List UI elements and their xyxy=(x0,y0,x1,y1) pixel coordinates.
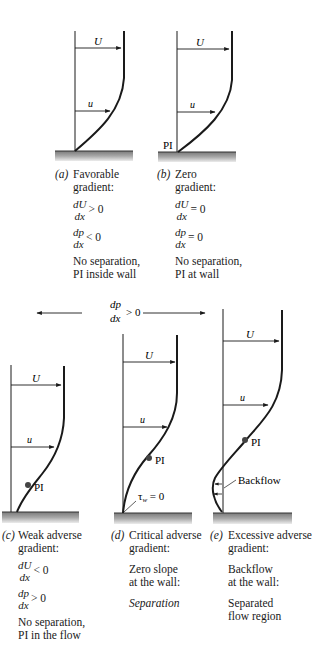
inflection-point-dot xyxy=(242,437,248,443)
panel-a-sketch: U u xyxy=(55,31,133,161)
label-tau-w: τw = 0 xyxy=(138,490,165,504)
caption-note: No separation, xyxy=(175,255,242,268)
wall xyxy=(158,152,236,162)
label-U: U xyxy=(196,36,205,48)
label-PI: PI xyxy=(155,454,165,466)
label-u: u xyxy=(240,392,245,403)
caption-a: (a) Favorable gradient: dUdx > 0 dpdx < … xyxy=(55,168,140,281)
label-u: u xyxy=(190,99,195,110)
dp-numerator: dp xyxy=(110,298,122,310)
caption-d: (d) Critical adverse gradient: Zero slop… xyxy=(111,529,201,610)
caption-title: Critical adverse xyxy=(129,529,201,542)
caption-title: Zero xyxy=(175,168,242,181)
caption-result: Separated xyxy=(228,597,312,610)
caption-b: (b) Zero gradient: dUdx = 0 dpdx = 0 No … xyxy=(157,168,242,281)
caption-desc: at the wall: xyxy=(129,576,201,589)
caption-title: gradient: xyxy=(73,181,140,194)
condition-dU-dx: dUdx > 0 xyxy=(73,198,140,222)
condition-dp-dx: dpdx = 0 xyxy=(175,226,242,250)
caption-note: No separation, xyxy=(73,255,140,268)
label-PI: PI xyxy=(251,436,261,448)
caption-tag: (d) xyxy=(111,529,129,610)
label-U: U xyxy=(145,349,154,361)
condition-dU-dx: dUdx < 0 xyxy=(18,559,85,583)
panel-c-sketch: U u PI xyxy=(2,365,79,523)
wall-shear-leader xyxy=(124,501,136,512)
caption-title: gradient: xyxy=(18,542,85,555)
caption-tag: (a) xyxy=(55,168,73,281)
caption-note: PI in the flow xyxy=(18,629,85,642)
caption-tag: (e) xyxy=(210,529,228,623)
label-backflow: Backflow xyxy=(238,474,281,486)
inflection-point-dot xyxy=(25,482,31,488)
condition-dp-dx: dpdx > 0 xyxy=(18,587,85,611)
caption-e: (e) Excessive adverse gradient: Backflow… xyxy=(210,529,312,623)
panel-d-sketch: U u PI τw = 0 xyxy=(114,334,192,524)
caption-title: gradient: xyxy=(175,181,242,194)
label-U: U xyxy=(94,35,103,47)
caption-title: Favorable xyxy=(73,168,140,181)
caption-title: gradient: xyxy=(228,542,312,555)
label-PI: PI xyxy=(34,481,44,493)
caption-title: Weak adverse xyxy=(18,529,85,542)
caption-desc: Backflow xyxy=(228,563,312,576)
caption-note: No separation, xyxy=(18,616,85,629)
label-PI: PI xyxy=(163,139,173,151)
wall xyxy=(55,151,133,161)
label-u: u xyxy=(27,434,32,445)
caption-tag: (b) xyxy=(157,168,175,281)
caption-note: PI inside wall xyxy=(73,268,140,281)
caption-desc: at the wall: xyxy=(228,576,312,589)
backflow-leader xyxy=(224,480,236,488)
caption-result: Separation xyxy=(129,597,201,610)
caption-desc: Zero slope xyxy=(129,563,201,576)
condition-dU-dx: dUdx = 0 xyxy=(175,198,242,222)
caption-title: gradient: xyxy=(129,542,201,555)
wall xyxy=(114,513,192,524)
dx-denominator: dx xyxy=(110,312,121,324)
caption-result: flow region xyxy=(228,610,312,623)
label-u: u xyxy=(140,414,145,425)
caption-c: (c) Weak adverse gradient: dUdx < 0 dpdx… xyxy=(2,529,85,642)
panel-b-sketch: U u PI xyxy=(158,31,236,162)
adverse-gradient-indicator: dp dx > 0 xyxy=(37,298,205,324)
gt-zero: > 0 xyxy=(126,306,141,318)
caption-tag: (c) xyxy=(2,529,18,642)
label-u: u xyxy=(88,98,93,109)
caption-title: Excessive adverse xyxy=(228,529,312,542)
caption-note: PI at wall xyxy=(175,268,242,281)
wall xyxy=(213,513,292,524)
panel-e-sketch: U u PI Backflow xyxy=(213,309,292,524)
label-U: U xyxy=(246,328,255,340)
inflection-point-dot xyxy=(146,455,152,461)
velocity-profile xyxy=(75,31,124,151)
wall xyxy=(2,512,79,523)
label-U: U xyxy=(32,372,41,384)
condition-dp-dx: dpdx < 0 xyxy=(73,226,140,250)
